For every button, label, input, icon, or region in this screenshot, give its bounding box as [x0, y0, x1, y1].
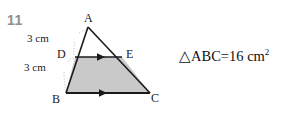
leader-line-ad-bottom	[74, 42, 75, 56]
triangle-symbol-icon: △	[179, 48, 191, 64]
formula-unit: cm	[244, 48, 265, 64]
formula-exponent: 2	[265, 47, 270, 57]
vertex-label-e: E	[126, 48, 133, 60]
area-formula: △ABC=16 cm2	[179, 49, 269, 64]
dimension-label-ad: 3 cm	[27, 33, 49, 44]
vertex-label-b: B	[52, 93, 60, 105]
formula-triangle-label: ABC	[191, 48, 221, 64]
dimension-label-db: 3 cm	[24, 62, 46, 73]
vertex-label-c: C	[151, 92, 159, 104]
shaded-trapezoid-dbce	[66, 57, 150, 93]
leader-line-db-top	[68, 58, 74, 62]
formula-equals: =	[221, 48, 229, 64]
formula-value: 16	[229, 48, 244, 64]
vertex-label-d: D	[57, 48, 66, 60]
vertex-label-a: A	[84, 12, 93, 24]
leader-line-db-bottom	[64, 72, 66, 91]
worksheet-problem-figure: 11 A D E B C 3 cm 3 cm △ABC=16 cm2	[0, 0, 298, 113]
